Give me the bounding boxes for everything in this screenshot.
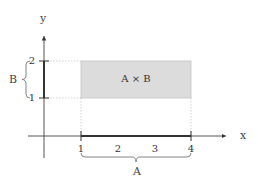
set-a-label: A [132,165,142,178]
cartesian-product-diagram: 1 2 3 4 2 1 y x A × B A B [0,0,258,183]
x-axis-label: x [240,129,247,142]
x-tick-4: 4 [188,143,194,154]
product-label: A × B [120,73,150,84]
y-tick-1: 1 [29,92,35,103]
x-tick-1: 1 [78,143,84,154]
x-tick-2: 2 [115,143,121,154]
y-tick-2: 2 [29,55,35,66]
y-axis-label: y [39,12,47,25]
x-tick-3: 3 [152,143,158,154]
set-b-label: B [9,73,17,86]
brace-a [81,153,191,162]
